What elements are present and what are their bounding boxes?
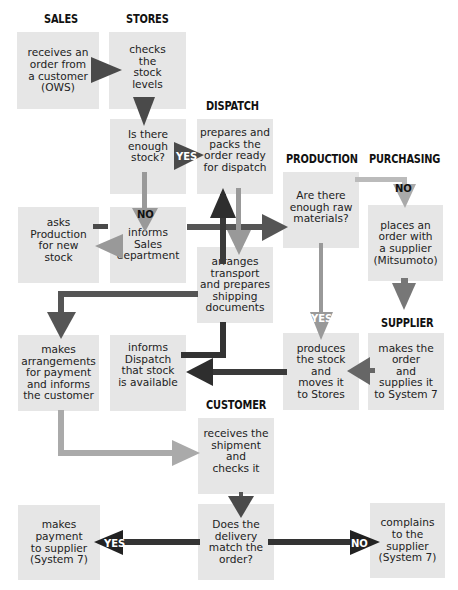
arrow-receives-to-delivery	[228, 496, 254, 518]
label-no-stock: NO	[137, 209, 154, 220]
arrow-up-to-prepares	[210, 188, 236, 218]
arrow-stores-to-enough	[133, 97, 155, 126]
arrow-sales-to-stores	[91, 57, 122, 83]
label-no-materials: NO	[395, 183, 412, 194]
arrow-to-production	[262, 214, 288, 241]
arrow-informs-to-asks	[95, 234, 123, 259]
arrow-purchasing-to-supplier	[392, 283, 416, 310]
label-yes-delivery: YES	[103, 538, 125, 549]
arrow-prepares-to-arranges	[227, 230, 251, 255]
label-yes-materials: YES	[310, 313, 332, 324]
arrow-supplier-to-produces	[347, 357, 370, 385]
arrow-produces-to-informs	[186, 358, 213, 386]
flow-arrows: YES NO NO YES YES NO	[0, 0, 458, 590]
label-yes-stock: YES	[175, 151, 197, 162]
arrow-to-receives-shipment	[172, 440, 200, 466]
label-no-delivery: NO	[351, 538, 368, 549]
arrow-to-makes-arrangements	[47, 312, 76, 339]
